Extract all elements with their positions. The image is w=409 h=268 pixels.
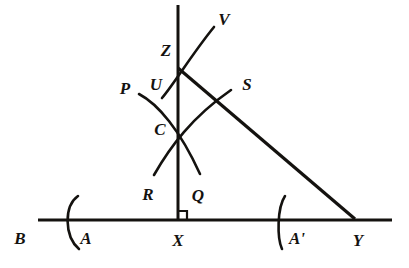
arc-p-to-q xyxy=(139,94,200,174)
label-A: A xyxy=(80,230,91,247)
label-C: C xyxy=(154,121,165,138)
arc-a-prime-right-baseline xyxy=(279,196,285,249)
label-B: B xyxy=(14,230,25,247)
arc-a-left-baseline xyxy=(68,196,79,249)
geometric-construction-figure: BAXA'YRQCPUSZV xyxy=(0,0,409,268)
label-R: R xyxy=(142,186,153,203)
label-P: P xyxy=(120,80,130,97)
construction-drawing-canvas xyxy=(0,0,409,268)
label-U: U xyxy=(150,76,162,93)
label-X: X xyxy=(172,232,183,249)
arc-u-to-v xyxy=(162,27,214,98)
label-S: S xyxy=(242,76,251,93)
label-Q: Q xyxy=(192,187,204,204)
segment-z-to-y xyxy=(178,68,355,219)
label-Z: Z xyxy=(161,42,171,59)
label-A-prime: A' xyxy=(289,230,305,247)
label-V: V xyxy=(218,11,229,28)
label-Y: Y xyxy=(353,232,363,249)
